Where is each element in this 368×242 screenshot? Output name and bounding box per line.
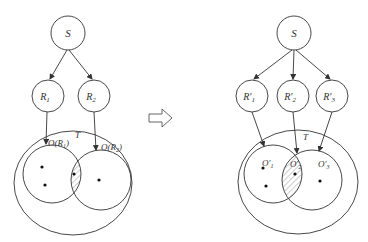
right-edge-r2-o2 xyxy=(293,112,297,153)
right-router-3-sub: 3 xyxy=(330,96,335,104)
left-edge-s-r1 xyxy=(50,50,67,79)
right-router-node-1: R'1 xyxy=(236,80,268,112)
svg-text:R'3: R'3 xyxy=(322,91,335,104)
left-edge-r2-o2 xyxy=(94,112,96,150)
svg-text:R'1: R'1 xyxy=(242,91,255,104)
left-router-2-sub: 2 xyxy=(92,96,96,104)
diagram-canvas: S R1 R2 T O(R1) O(R2) xyxy=(0,0,368,242)
left-source-label: S xyxy=(65,27,71,39)
svg-text:O'3: O'3 xyxy=(318,159,329,170)
left-set-2-label: O(R xyxy=(101,142,116,152)
svg-text:O(R2): O(R2) xyxy=(101,142,122,153)
right-router-1-sub: 1 xyxy=(251,96,255,104)
right-set-1-sub: 1 xyxy=(270,163,273,169)
left-set-1-label: O(R xyxy=(48,138,63,148)
svg-text:R'2: R'2 xyxy=(283,91,296,104)
left-router-1-label: R xyxy=(39,91,46,102)
right-target-label: T xyxy=(303,132,309,142)
right-source-label: S xyxy=(291,27,297,39)
right-edge-s-r3 xyxy=(296,50,330,79)
right-router-node-3: R'3 xyxy=(316,80,348,112)
left-source-node: S xyxy=(51,16,85,50)
left-router-1-sub: 1 xyxy=(46,96,50,104)
left-edge-r1-o1 xyxy=(46,112,47,144)
hollow-right-arrow-icon xyxy=(149,109,172,127)
left-set-1-close: ) xyxy=(65,138,69,148)
left-edge-s-r2 xyxy=(69,50,92,79)
svg-text:R2: R2 xyxy=(85,91,96,104)
left-router-node-1: R1 xyxy=(32,80,64,112)
diagram-svg: S R1 R2 T O(R1) O(R2) xyxy=(0,0,368,242)
right-router-node-2: R'2 xyxy=(277,80,309,112)
right-edge-r3-o3 xyxy=(319,112,332,151)
left-router-2-label: R xyxy=(85,91,92,102)
right-edge-s-r2 xyxy=(293,50,294,79)
right-diagram: S R'1 R'2 R'3 T O'1 O'2 O'3 xyxy=(236,16,358,234)
right-source-node: S xyxy=(277,16,311,50)
right-router-2-sub: 2 xyxy=(292,96,296,104)
right-set-3-sub: 3 xyxy=(325,164,329,170)
left-router-node-2: R2 xyxy=(78,80,110,112)
right-edge-s-r1 xyxy=(254,50,292,79)
right-set-2-sub: 2 xyxy=(298,164,301,170)
left-set-2-close: ) xyxy=(118,142,122,152)
svg-text:O(R1): O(R1) xyxy=(48,138,69,149)
left-points xyxy=(40,165,100,186)
left-diagram: S R1 R2 T O(R1) O(R2) xyxy=(14,16,132,235)
svg-text:R1: R1 xyxy=(39,91,50,104)
svg-text:O'2: O'2 xyxy=(290,159,301,170)
right-edge-r1-o1 xyxy=(252,112,264,146)
